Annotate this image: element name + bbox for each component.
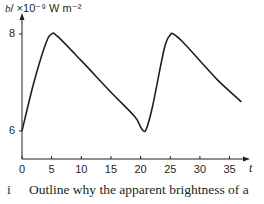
question-text: iOutline why the apparent brightness of … <box>7 182 249 198</box>
x-tick-label: 0 <box>12 163 32 175</box>
x-tick-label: 25 <box>160 163 180 175</box>
question-number: i <box>7 182 29 198</box>
y-tick-label: 8 <box>9 27 15 39</box>
x-tick-label: 30 <box>190 163 210 175</box>
x-tick-label: 5 <box>42 163 62 175</box>
x-axis-label: t <box>249 161 252 176</box>
brightness-curve <box>22 33 241 131</box>
y-axis-arrow-icon <box>20 13 25 20</box>
y-tick-label: 6 <box>9 124 15 136</box>
axis-ticks <box>19 34 230 159</box>
question-body: Outline why the apparent brightness of a <box>29 182 249 197</box>
x-tick-label: 20 <box>131 163 151 175</box>
x-tick-label: 10 <box>71 163 91 175</box>
x-tick-label: 15 <box>101 163 121 175</box>
x-tick-label: 35 <box>220 163 240 175</box>
